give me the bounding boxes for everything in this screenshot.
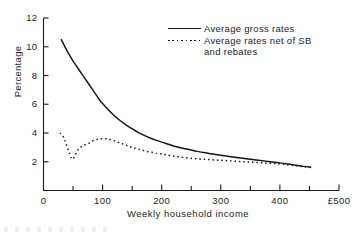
legend-entry-continuation: and rebates: [168, 46, 312, 58]
y-tick-marks: [44, 18, 49, 162]
y-tick-label-2: 2: [12, 156, 38, 167]
legend-label-average-rates-net: Average rates net of SB: [204, 35, 312, 47]
rates-line-chart: 24681012 0100200300400£500 Percentage We…: [0, 0, 364, 233]
legend-label-continuation: and rebates: [204, 46, 257, 58]
x-tick-label-0: 0: [24, 195, 64, 206]
x-axis-title: Weekly household income: [43, 208, 333, 219]
legend-entry-average-gross-rates: Average gross rates: [168, 23, 312, 35]
x-tick-label-100: 100: [83, 195, 123, 206]
legend-label-average-gross-rates: Average gross rates: [204, 23, 295, 35]
y-axis-title: Percentage: [12, 32, 23, 112]
legend-swatch-dotted-line-icon: [168, 35, 204, 47]
x-tick-label-400: 400: [260, 195, 300, 206]
x-tick-label-500: £500: [319, 195, 359, 206]
x-tick-label-300: 300: [201, 195, 241, 206]
x-tick-marks: [44, 185, 340, 191]
y-tick-label-12: 12: [12, 12, 38, 23]
series-line-average-gross-rates: [61, 40, 310, 168]
page-edge-artifact: [4, 227, 114, 232]
x-tick-label-200: 200: [142, 195, 182, 206]
chart-legend: Average gross rates Average rates net of…: [168, 23, 312, 58]
legend-swatch-solid-line-icon: [168, 23, 204, 35]
legend-entry-average-rates-net: Average rates net of SB: [168, 35, 312, 47]
y-tick-label-4: 4: [12, 127, 38, 138]
